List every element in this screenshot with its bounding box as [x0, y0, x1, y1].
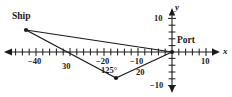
x-tick-label-neg40: −40 [28, 57, 41, 66]
y-axis-label: y [175, 3, 179, 12]
y-tick-label-pos10: 10 [154, 14, 163, 23]
x-tick-label-neg10: −10 [130, 57, 143, 66]
point-marker-port [170, 50, 174, 54]
triangle-path-group [26, 30, 172, 78]
triangle-diagram-svg [0, 0, 232, 97]
x-tick-label-pos10: 10 [201, 57, 210, 66]
x-axis-label: x [223, 47, 228, 56]
y-axis-down-arrowhead [169, 86, 175, 94]
x-axis-left-arrowhead [4, 49, 12, 56]
figure-canvas: Ship Port −40 −20 −10 10 10 −10 x y 30 2… [0, 0, 232, 97]
point-label-port: Port [177, 36, 195, 46]
point-label-ship: Ship [12, 12, 31, 22]
side-label-30: 30 [62, 62, 71, 71]
point-marker-turn [114, 76, 118, 80]
angle-label-125: 125° [101, 66, 117, 75]
x-axis-group [4, 48, 220, 56]
y-tick-label-neg10: −10 [150, 81, 163, 90]
side-label-20: 20 [136, 68, 145, 77]
point-marker-ship [24, 28, 28, 32]
